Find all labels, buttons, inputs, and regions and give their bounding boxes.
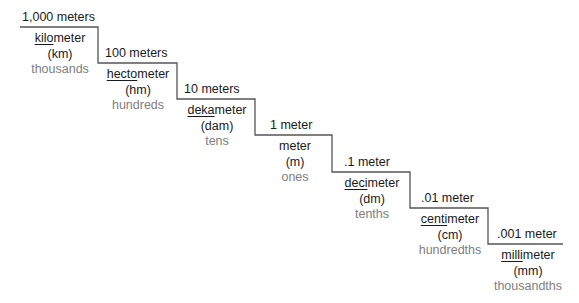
step-amount: .01 meter bbox=[421, 191, 474, 205]
place-value: thousands bbox=[20, 62, 100, 77]
place-value: ones bbox=[255, 170, 335, 185]
step-amount: 10 meters bbox=[184, 82, 240, 96]
unit-abbreviation: (dm) bbox=[332, 191, 412, 207]
place-value: hundreds bbox=[98, 98, 178, 113]
place-value: tenths bbox=[332, 207, 412, 222]
step-milli: millimeter(mm)thousandths bbox=[488, 247, 568, 294]
unit-prefix: deci bbox=[345, 176, 368, 190]
unit-abbreviation: (mm) bbox=[488, 263, 568, 279]
unit-name: centimeter bbox=[410, 211, 490, 227]
unit-abbreviation: (hm) bbox=[98, 82, 178, 98]
unit-abbreviation: (dam) bbox=[177, 118, 257, 134]
unit-name: dekameter bbox=[177, 102, 257, 118]
unit-prefix: deka bbox=[187, 103, 214, 117]
place-value: tens bbox=[177, 134, 257, 149]
step-hecto: hectometer(hm)hundreds bbox=[98, 66, 178, 113]
step-centi: centimeter(cm)hundredths bbox=[410, 211, 490, 258]
unit-name: millimeter bbox=[488, 247, 568, 263]
unit-abbreviation: (km) bbox=[20, 46, 100, 62]
unit-base: meter bbox=[367, 176, 399, 190]
unit-base: meter bbox=[215, 103, 247, 117]
step-amount: .1 meter bbox=[344, 155, 390, 169]
step-meter: meter(m)ones bbox=[255, 138, 335, 185]
step-deci: decimeter(dm)tenths bbox=[332, 175, 412, 222]
unit-name: kilometer bbox=[20, 30, 100, 46]
unit-name: decimeter bbox=[332, 175, 412, 191]
unit-abbreviation: (m) bbox=[255, 154, 335, 170]
step-amount: .001 meter bbox=[497, 227, 557, 241]
place-value: thousandths bbox=[488, 279, 568, 294]
step-kilo: kilometer(km)thousands bbox=[20, 30, 100, 77]
step-amount: 100 meters bbox=[105, 46, 168, 60]
unit-base: meter bbox=[137, 67, 169, 81]
unit-base: meter bbox=[279, 139, 311, 153]
unit-prefix: milli bbox=[501, 248, 523, 262]
step-amount: 1,000 meters bbox=[22, 10, 95, 24]
unit-prefix: kilo bbox=[35, 31, 54, 45]
unit-abbreviation: (cm) bbox=[410, 227, 490, 243]
place-value: hundredths bbox=[410, 243, 490, 258]
unit-base: meter bbox=[53, 31, 85, 45]
unit-base: meter bbox=[447, 212, 479, 226]
unit-name: hectometer bbox=[98, 66, 178, 82]
unit-base: meter bbox=[523, 248, 555, 262]
step-deka: dekameter(dam)tens bbox=[177, 102, 257, 149]
unit-prefix: hecto bbox=[107, 67, 138, 81]
unit-name: meter bbox=[255, 138, 335, 154]
step-amount: 1 meter bbox=[270, 118, 312, 132]
unit-prefix: centi bbox=[421, 212, 447, 226]
